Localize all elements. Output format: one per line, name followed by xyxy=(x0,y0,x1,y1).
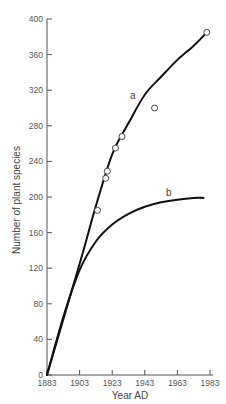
observation-point xyxy=(152,105,158,111)
x-tick-label: 1903 xyxy=(70,378,89,388)
observation-point xyxy=(204,29,210,35)
observation-point xyxy=(95,207,101,213)
y-tick-label: 120 xyxy=(29,263,43,273)
y-tick-label: 360 xyxy=(29,50,43,60)
y-tick-label: 200 xyxy=(29,192,43,202)
axes: 04080120160200240280320360400 1883190319… xyxy=(11,14,220,401)
y-tick-label: 80 xyxy=(34,299,44,309)
observation-point xyxy=(119,133,125,139)
x-tick-label: 1963 xyxy=(168,378,187,388)
curve-b xyxy=(47,198,204,375)
y-axis-ticks: 04080120160200240280320360400 xyxy=(29,14,52,380)
y-tick-label: 160 xyxy=(29,228,43,238)
y-tick-label: 280 xyxy=(29,121,43,131)
x-tick-label: 1943 xyxy=(135,378,154,388)
x-axis-ticks: 188319031923194319631983 xyxy=(38,370,220,388)
species-accumulation-chart: 04080120160200240280320360400 1883190319… xyxy=(0,0,226,404)
curve-a-label: a xyxy=(130,90,136,101)
y-tick-label: 400 xyxy=(29,14,43,24)
x-tick-label: 1923 xyxy=(103,378,122,388)
y-tick-label: 40 xyxy=(34,334,44,344)
y-tick-label: 240 xyxy=(29,156,43,166)
y-tick-label: 320 xyxy=(29,85,43,95)
observation-point xyxy=(104,168,110,174)
x-axis-title: Year AD xyxy=(112,390,148,401)
curves xyxy=(47,32,207,375)
x-tick-label: 1983 xyxy=(201,378,220,388)
curve-a xyxy=(47,32,207,375)
observation-point xyxy=(103,175,109,181)
observation-point xyxy=(112,145,118,151)
curve-b-label: b xyxy=(166,187,172,198)
x-tick-label: 1883 xyxy=(38,378,57,388)
y-axis-title: Number of plant species xyxy=(11,146,22,254)
observation-points xyxy=(95,29,210,213)
